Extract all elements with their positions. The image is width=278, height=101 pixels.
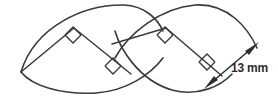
left-lens-upper-arc [21,5,163,72]
right-lens-chord-middle [166,28,222,76]
dimension-arrowhead-start [204,76,218,89]
figure-canvas: 13 mm [0,0,278,101]
geometry-figure: 13 mm [0,0,278,101]
left-lens-chord-lower [74,28,131,74]
left-lens-lower-arc [21,58,163,93]
right-lens-upper-arc [115,5,257,58]
dimension-label: 13 mm [231,61,268,75]
